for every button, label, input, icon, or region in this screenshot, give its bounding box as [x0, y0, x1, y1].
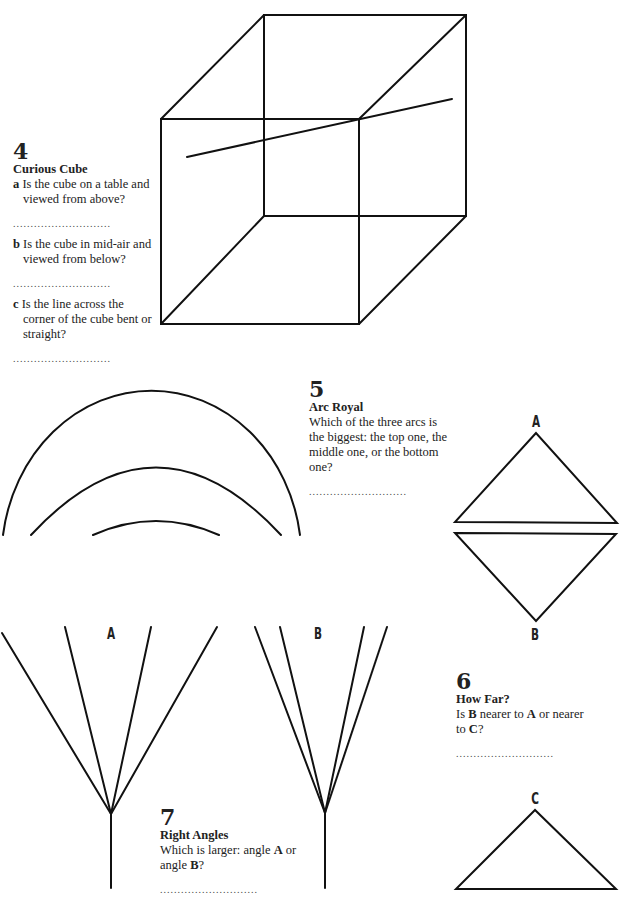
answer-line[interactable]: ............................ — [456, 749, 591, 759]
triangle-label-a: A — [532, 413, 540, 431]
question-text: Is the line across the corner of the cub… — [22, 297, 152, 341]
fan-b-ray — [325, 627, 364, 813]
puzzle-5: 5 Arc Royal Which of the three arcs is t… — [309, 378, 449, 505]
arc-middle — [31, 468, 281, 536]
question-text: Which is larger: angle A or angle B? — [160, 843, 296, 872]
puzzle-title: Curious Cube — [13, 162, 158, 177]
cube-diagonal-line — [187, 99, 452, 157]
puzzle-7: 7 Right Angles Which is larger: angle A … — [160, 806, 300, 902]
cube-edge — [359, 216, 466, 324]
puzzle-title: How Far? — [456, 692, 591, 707]
question-c: c Is the line across the corner of the c… — [13, 297, 158, 342]
answer-line[interactable]: ............................ — [13, 219, 158, 229]
triangle-b — [455, 533, 616, 621]
text-part: A — [527, 707, 536, 721]
fan-a-ray — [65, 627, 111, 814]
question-text: Is the cube on a table and viewed from a… — [22, 177, 149, 206]
puzzle-number: 7 — [160, 806, 300, 828]
triangle-a — [455, 433, 617, 523]
arc-top — [3, 391, 300, 535]
answer-line[interactable]: ............................ — [13, 354, 158, 364]
question-letter: a — [13, 177, 19, 191]
text-part: Which is larger: angle — [160, 843, 274, 857]
answer-line[interactable]: ............................ — [160, 885, 300, 895]
fan-a-ray — [111, 627, 217, 814]
arcs-figure — [3, 391, 300, 535]
puzzle-number: 5 — [309, 378, 449, 400]
puzzle-4: 4 Curious Cube a Is the cube on a table … — [13, 140, 158, 372]
triangle-c — [456, 810, 616, 889]
answer-line[interactable]: ............................ — [13, 279, 158, 289]
puzzle-title: Right Angles — [160, 828, 300, 843]
fan-b-ray — [255, 627, 325, 813]
question-b: b Is the cube in mid-air and viewed from… — [13, 237, 158, 267]
fan-a-ray — [111, 627, 151, 814]
puzzle-6: 6 How Far? Is B nearer to A or nearer to… — [456, 670, 591, 767]
fan-a-ray — [2, 633, 111, 814]
question-letter: c — [13, 297, 19, 311]
cube-edge — [161, 216, 264, 324]
text-part: ? — [478, 722, 484, 736]
fan-label-b: B — [314, 625, 322, 643]
necker-cube — [161, 15, 466, 324]
text-part: nearer to — [477, 707, 527, 721]
triangle-label-b: B — [531, 626, 539, 644]
question-letter: b — [13, 237, 20, 251]
question-text: Is the cube in mid-air and viewed from b… — [23, 237, 151, 266]
question-text: Is B nearer to A or nearer to C? — [456, 707, 584, 736]
arc-bottom — [93, 521, 219, 535]
question-text: Which of the three arcs is the biggest: … — [309, 415, 447, 474]
text-part: ? — [199, 858, 205, 872]
fan-b-ray — [280, 627, 325, 813]
cube-edge — [161, 15, 264, 119]
puzzle-number: 6 — [456, 670, 591, 692]
text-part: B — [190, 858, 198, 872]
answer-line[interactable]: ............................ — [309, 487, 449, 497]
text-part: Is — [456, 707, 468, 721]
triangle-label-c: C — [531, 790, 539, 808]
triangles-figure — [455, 433, 617, 889]
cube-edge — [359, 15, 466, 119]
text-part: C — [469, 722, 478, 736]
text-part: A — [274, 843, 283, 857]
puzzle-title: Arc Royal — [309, 400, 449, 415]
text-part: B — [468, 707, 476, 721]
puzzle-number: 4 — [13, 140, 158, 162]
fan-b-ray — [325, 627, 387, 813]
fan-label-a: A — [107, 625, 115, 643]
question-a: a Is the cube on a table and viewed from… — [13, 177, 158, 207]
